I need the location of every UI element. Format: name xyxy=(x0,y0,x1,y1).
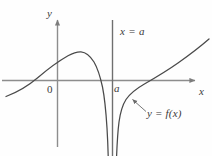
function-equation-label: y = f(x) xyxy=(147,108,182,119)
y-axis-label: y xyxy=(47,8,52,19)
function-label-leader-line xyxy=(133,100,147,112)
x-axis-label: x xyxy=(199,86,204,97)
graph-canvas xyxy=(0,0,212,156)
math-graph-figure: y x 0 a x = a y = f(x) xyxy=(0,0,212,156)
curve-right-branch xyxy=(117,39,209,156)
asymptote-equation-label: x = a xyxy=(120,26,145,37)
x-tick-label-a: a xyxy=(114,83,120,94)
origin-label: 0 xyxy=(47,84,53,95)
